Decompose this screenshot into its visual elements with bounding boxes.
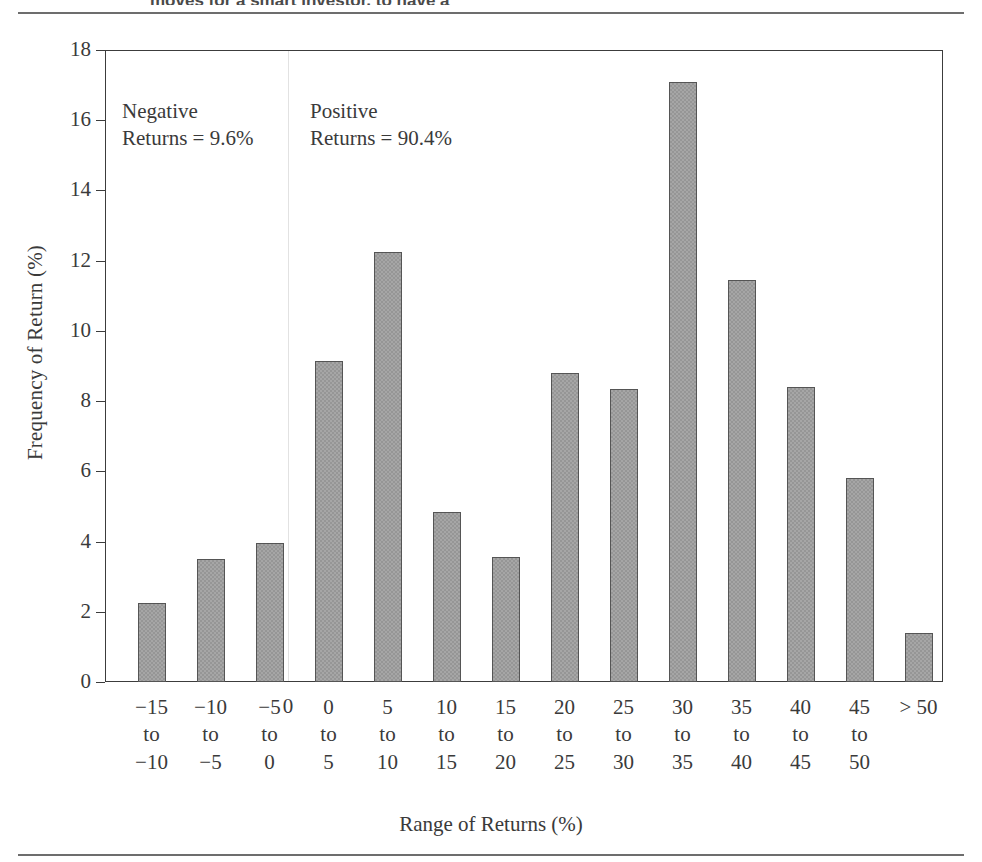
- bar: [433, 512, 461, 682]
- bar: [787, 387, 815, 682]
- y-axis-tick-label: 2: [81, 599, 92, 624]
- y-axis-tick-mark: [96, 471, 105, 472]
- x-axis-title: Range of Returns (%): [0, 812, 982, 837]
- annotation-negative-returns: Negative Returns = 9.6%: [122, 98, 253, 153]
- x-axis-category-label: 15 to 20: [476, 694, 536, 776]
- x-axis-category-label: 10 to 15: [417, 694, 477, 776]
- x-axis-category-label: 30 to 35: [653, 694, 713, 776]
- x-axis-zero-label: 0: [276, 694, 300, 719]
- returns-histogram-figure: Frequency of Return (%) 181614121086420 …: [0, 0, 982, 862]
- y-axis-tick-mark: [96, 190, 105, 191]
- bar: [374, 252, 402, 682]
- y-axis-tick-mark: [96, 331, 105, 332]
- bar: [492, 557, 520, 682]
- y-axis-tick-label: 6: [81, 458, 92, 483]
- x-axis-category-label: 45 to 50: [830, 694, 890, 776]
- bottom-rule: [18, 854, 964, 856]
- bar: [846, 478, 874, 682]
- x-axis-category-label: 20 to 25: [535, 694, 595, 776]
- bar: [315, 361, 343, 682]
- y-axis-tick-label: 8: [81, 388, 92, 413]
- x-axis-category-label: −15 to −10: [122, 694, 182, 776]
- x-axis-category-label: 5 to 10: [358, 694, 418, 776]
- y-axis-tick-mark: [96, 682, 105, 683]
- bar: [905, 633, 933, 682]
- bar: [197, 559, 225, 682]
- y-axis-tick-label: 12: [70, 248, 91, 273]
- x-axis-category-label: 40 to 45: [771, 694, 831, 776]
- y-axis-tick-label: 0: [81, 669, 92, 694]
- y-axis-tick-mark: [96, 120, 105, 121]
- y-axis-tick-mark: [96, 542, 105, 543]
- y-axis-tick-mark: [96, 50, 105, 51]
- y-axis-title: Frequency of Return (%): [23, 103, 48, 603]
- x-axis-category-label: 0 to 5: [299, 694, 359, 776]
- bar: [256, 543, 284, 682]
- bar: [669, 82, 697, 682]
- y-axis-tick-label: 14: [70, 177, 91, 202]
- y-axis-tick-mark: [96, 612, 105, 613]
- bar: [138, 603, 166, 682]
- x-axis-labels: −15 to −10−10 to −5−5 to 00 to 55 to 101…: [105, 694, 943, 794]
- y-axis-tick-label: 16: [70, 107, 91, 132]
- y-axis-tick-mark: [96, 261, 105, 262]
- y-axis-tick-mark: [96, 401, 105, 402]
- y-axis-tick-label: 18: [70, 37, 91, 62]
- x-axis-category-label: > 50: [889, 694, 949, 721]
- x-axis-category-label: −10 to −5: [181, 694, 241, 776]
- y-axis-tick-label: 4: [81, 529, 92, 554]
- y-axis-tick-label: 10: [70, 318, 91, 343]
- x-axis-category-label: 25 to 30: [594, 694, 654, 776]
- bar: [728, 280, 756, 682]
- y-axis-ticks: 181614121086420: [45, 0, 105, 862]
- annotation-positive-returns: Positive Returns = 90.4%: [310, 98, 452, 153]
- bar: [551, 373, 579, 682]
- bar: [610, 389, 638, 682]
- x-axis-category-label: 35 to 40: [712, 694, 772, 776]
